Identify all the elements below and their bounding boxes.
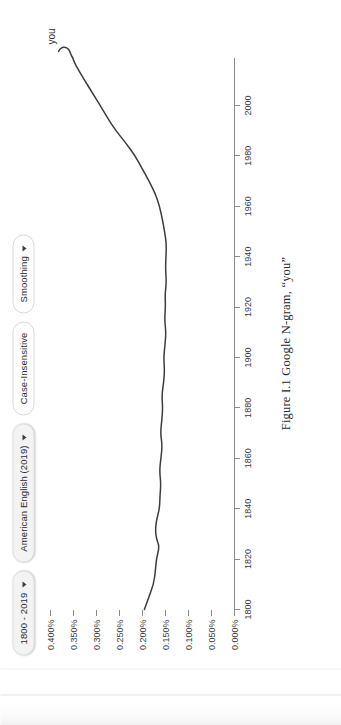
series-layer[interactable] <box>72 57 166 609</box>
y-tick-label: 0.400% <box>45 619 55 650</box>
series-label-leader <box>58 47 72 57</box>
case-insensitive-button[interactable]: Case-Insensitive <box>12 321 34 415</box>
y-axis: 0.000%0.050%0.100%0.150%0.200%0.250%0.30… <box>45 609 239 650</box>
y-tick-label: 0.300% <box>91 619 101 650</box>
smoothing-button[interactable]: Smoothing <box>12 234 34 313</box>
figure-caption: Figure I.1 Google N-gram, “you” <box>278 23 293 663</box>
ngram-chart[interactable]: 0.000%0.050%0.100%0.150%0.200%0.250%0.30… <box>40 23 260 663</box>
y-tick-label: 0.150% <box>160 619 170 650</box>
date-range-button[interactable]: 1800 - 2019 <box>12 570 34 655</box>
x-tick-label: 1940 <box>242 246 252 266</box>
x-tick-label: 1880 <box>242 397 252 417</box>
page-edge-shading <box>0 701 341 725</box>
screenshot-page: 1800 - 2019 American English (2019) Case… <box>0 0 341 725</box>
page-edge-rule-inner <box>0 668 341 669</box>
x-tick-label: 1860 <box>242 448 252 468</box>
x-tick-label: 1840 <box>242 498 252 518</box>
series-line-you[interactable] <box>72 57 166 609</box>
date-range-label: 1800 - 2019 <box>18 592 28 644</box>
y-tick-label: 0.000% <box>229 619 239 650</box>
page-edge-rule-outer <box>0 694 341 695</box>
y-tick-label: 0.350% <box>68 619 78 650</box>
x-axis: 1800182018401860188019001920194019601980… <box>234 57 252 619</box>
x-tick-label: 1800 <box>242 599 252 619</box>
series-end-label: you <box>45 28 56 44</box>
ngram-toolbar: 1800 - 2019 American English (2019) Case… <box>8 234 38 655</box>
corpus-button[interactable]: American English (2019) <box>12 423 34 562</box>
chevron-down-icon <box>22 245 26 251</box>
x-tick-label: 1900 <box>242 347 252 367</box>
corpus-label: American English (2019) <box>18 445 28 551</box>
chevron-down-icon <box>22 581 26 587</box>
case-insensitive-label: Case-Insensitive <box>18 332 28 404</box>
x-tick-label: 1980 <box>242 145 252 165</box>
chart-canvas[interactable]: 0.000%0.050%0.100%0.150%0.200%0.250%0.30… <box>40 23 260 663</box>
y-tick-label: 0.200% <box>137 619 147 650</box>
y-tick-label: 0.100% <box>183 619 193 650</box>
smoothing-label: Smoothing <box>18 256 28 302</box>
x-tick-label: 1960 <box>242 196 252 216</box>
y-tick-label: 0.250% <box>114 619 124 650</box>
series-labels: you <box>45 28 72 57</box>
rotated-page-content: 1800 - 2019 American English (2019) Case… <box>0 0 341 725</box>
chevron-down-icon <box>22 434 26 440</box>
x-tick-label: 2000 <box>242 95 252 115</box>
y-tick-label: 0.050% <box>206 619 216 650</box>
x-tick-label: 1920 <box>242 297 252 317</box>
x-tick-label: 1820 <box>242 549 252 569</box>
